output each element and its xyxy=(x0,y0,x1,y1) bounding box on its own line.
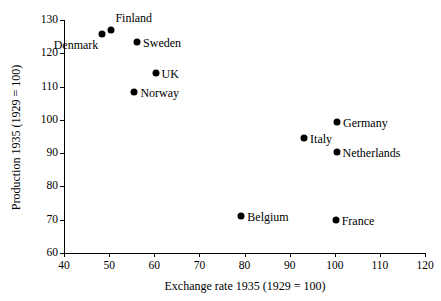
x-tick-label: 110 xyxy=(371,260,388,272)
x-tick-mark xyxy=(64,253,65,257)
data-point-label: Finland xyxy=(115,12,152,24)
x-tick-mark xyxy=(199,253,200,257)
x-tick-label: 50 xyxy=(103,260,115,272)
data-point-label: Norway xyxy=(140,87,179,99)
data-point-label: Sweden xyxy=(143,37,181,49)
x-tick-mark xyxy=(335,253,336,257)
y-tick-mark xyxy=(60,53,64,54)
y-tick-mark xyxy=(60,186,64,187)
y-tick-mark xyxy=(60,220,64,221)
x-tick-mark xyxy=(109,253,110,257)
x-axis-title: Exchange rate 1935 (1929 = 100) xyxy=(64,279,426,294)
y-tick-label: 110 xyxy=(41,81,58,93)
data-point-marker[interactable] xyxy=(301,134,308,141)
plot-area: 60708090100110120130 4050607080901001101… xyxy=(64,20,425,253)
y-tick-label: 90 xyxy=(47,147,59,159)
x-tick-label: 60 xyxy=(149,260,161,272)
x-tick-mark xyxy=(290,253,291,257)
y-tick-label: 60 xyxy=(47,247,59,259)
data-point-marker[interactable] xyxy=(333,149,340,156)
y-axis-title: Production 1935 (1929 = 100) xyxy=(9,18,24,258)
x-tick-mark xyxy=(425,253,426,257)
y-tick-mark xyxy=(60,20,64,21)
x-tick-label: 80 xyxy=(239,260,251,272)
y-tick-label: 80 xyxy=(47,181,59,193)
data-point-marker[interactable] xyxy=(134,38,141,45)
x-tick-label: 120 xyxy=(416,260,433,272)
scatter-chart-figure: 60708090100110120130 4050607080901001101… xyxy=(0,0,441,301)
y-tick-mark xyxy=(60,120,64,121)
x-tick-mark xyxy=(380,253,381,257)
data-point-marker[interactable] xyxy=(332,217,339,224)
data-point-marker[interactable] xyxy=(131,89,138,96)
x-tick-mark xyxy=(154,253,155,257)
y-tick-label: 100 xyxy=(41,114,58,126)
data-point-label: Italy xyxy=(310,133,332,145)
data-point-label: France xyxy=(342,215,375,227)
y-tick-label: 130 xyxy=(41,14,58,26)
x-tick-label: 100 xyxy=(326,260,343,272)
data-point-label: Denmark xyxy=(54,39,99,51)
data-point-label: Belgium xyxy=(247,211,288,223)
y-tick-mark xyxy=(60,87,64,88)
data-point-marker[interactable] xyxy=(334,118,341,125)
y-tick-mark xyxy=(60,153,64,154)
x-tick-mark xyxy=(245,253,246,257)
data-point-marker[interactable] xyxy=(238,213,245,220)
data-point-marker[interactable] xyxy=(99,31,106,38)
data-point-marker[interactable] xyxy=(108,26,115,33)
data-point-label: Germany xyxy=(343,117,388,129)
data-point-label: Netherlands xyxy=(343,147,401,159)
data-point-marker[interactable] xyxy=(152,69,159,76)
y-tick-label: 70 xyxy=(47,214,59,226)
data-point-label: UK xyxy=(162,68,179,80)
x-tick-label: 40 xyxy=(58,260,70,272)
x-tick-label: 70 xyxy=(194,260,206,272)
x-tick-label: 90 xyxy=(284,260,296,272)
